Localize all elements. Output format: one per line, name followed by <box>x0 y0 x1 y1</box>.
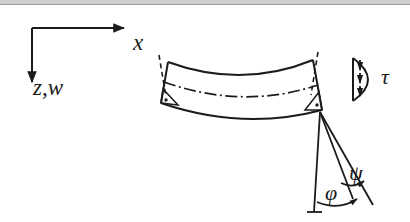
phi-angle-label: φ <box>325 182 337 204</box>
right-angle-markers <box>161 89 322 110</box>
psi-angle-label: ψ <box>349 162 363 184</box>
angle-vertical-reference-line <box>314 112 320 212</box>
beam-bottom-edge <box>161 103 322 119</box>
right-right-angle-dot <box>315 103 318 106</box>
rotation-angle-construction <box>307 112 373 212</box>
z-axis-label: z,w <box>33 76 63 99</box>
x-axis-label: x <box>133 31 143 54</box>
beam-neutral-axis-centerline <box>164 82 318 97</box>
shear-stress-label: τ <box>381 66 389 88</box>
left-right-angle-dot <box>164 98 167 101</box>
beam-top-edge <box>168 60 313 75</box>
beam-diagram-svg <box>0 0 410 222</box>
figure-canvas: x z,w τ ψ φ <box>0 0 410 222</box>
deformed-beam-element <box>161 60 322 119</box>
coordinate-axes <box>32 28 124 82</box>
shear-stress-distribution <box>353 58 368 101</box>
